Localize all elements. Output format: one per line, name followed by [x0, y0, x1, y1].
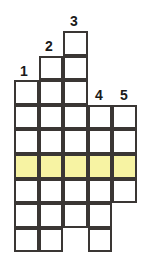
grid-cell-highlighted[interactable] — [112, 154, 137, 179]
grid-cell-highlighted[interactable] — [39, 154, 64, 179]
grid-cell[interactable] — [63, 203, 88, 228]
grid-cell[interactable] — [63, 105, 88, 130]
grid-diagram: 12345 — [0, 0, 144, 273]
column-label-2: 2 — [41, 39, 57, 53]
grid-cell[interactable] — [14, 203, 39, 228]
column-label-4: 4 — [91, 88, 107, 102]
column-label-3: 3 — [66, 14, 82, 28]
grid-cell[interactable] — [39, 203, 64, 228]
column-label-1: 1 — [16, 64, 32, 78]
grid-cell[interactable] — [112, 129, 137, 154]
grid-cell[interactable] — [39, 80, 64, 105]
grid-cell[interactable] — [14, 228, 39, 253]
grid-cell[interactable] — [63, 179, 88, 204]
column-label-5: 5 — [116, 88, 132, 102]
grid-cell[interactable] — [88, 228, 113, 253]
grid-cell[interactable] — [88, 179, 113, 204]
grid-cell[interactable] — [39, 56, 64, 81]
grid-cell-highlighted[interactable] — [14, 154, 39, 179]
grid-cell[interactable] — [39, 228, 64, 253]
grid-cell-highlighted[interactable] — [63, 154, 88, 179]
grid-cell[interactable] — [88, 105, 113, 130]
grid-cell[interactable] — [63, 31, 88, 56]
grid-cell[interactable] — [39, 129, 64, 154]
grid-cell[interactable] — [112, 105, 137, 130]
grid-cell[interactable] — [14, 80, 39, 105]
grid-cell-highlighted[interactable] — [88, 154, 113, 179]
grid-cell[interactable] — [39, 179, 64, 204]
grid-cell[interactable] — [14, 179, 39, 204]
grid-cell[interactable] — [14, 129, 39, 154]
grid-cell[interactable] — [63, 80, 88, 105]
grid-cell[interactable] — [88, 203, 113, 228]
grid-cell[interactable] — [63, 129, 88, 154]
grid-cell[interactable] — [112, 179, 137, 204]
grid-cell[interactable] — [14, 105, 39, 130]
grid-cell[interactable] — [63, 56, 88, 81]
grid-cell[interactable] — [39, 105, 64, 130]
grid-cell[interactable] — [88, 129, 113, 154]
